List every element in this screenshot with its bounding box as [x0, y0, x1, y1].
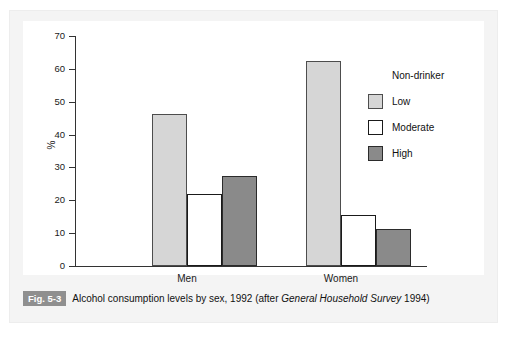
y-tick-30: 30	[23, 162, 75, 172]
y-tick-label: 10	[39, 228, 65, 238]
y-tick-label: 20	[39, 195, 65, 205]
y-tick-40: 40	[23, 130, 75, 140]
bar-men-moderate	[187, 194, 222, 266]
y-tick-50: 50	[23, 97, 75, 107]
y-tick-label: 50	[39, 97, 65, 107]
legend-label: High	[392, 148, 413, 159]
y-tick-mark	[69, 266, 75, 267]
bar-men-high	[222, 176, 257, 266]
y-tick-10: 10	[23, 228, 75, 238]
bar-women-high	[376, 229, 411, 266]
figure-caption: Fig. 5-3 Alcohol consumption levels by s…	[23, 288, 484, 308]
y-tick-60: 60	[23, 64, 75, 74]
legend-label: Non-drinker	[392, 70, 444, 81]
legend: Non-drinkerLowModerateHigh	[368, 67, 480, 171]
legend-swatch-non-drinker-icon	[368, 68, 383, 83]
legend-label: Moderate	[392, 122, 434, 133]
x-axis-line	[75, 266, 427, 267]
caption-text: Alcohol consumption levels by sex, 1992 …	[72, 293, 429, 304]
y-tick-label: 70	[39, 31, 65, 41]
category-label-men: Men	[117, 273, 257, 285]
caption-text-before: Alcohol consumption levels by sex, 1992 …	[72, 293, 281, 304]
legend-item-low[interactable]: Low	[368, 93, 480, 109]
figure-container: % 706050403020100 MenWomen Non-drinkerLo…	[0, 0, 507, 337]
plot-area: % 706050403020100 MenWomen Non-drinkerLo…	[23, 21, 484, 275]
caption-text-after: 1994)	[401, 293, 429, 304]
legend-label: Low	[392, 96, 410, 107]
bar-men-low	[152, 114, 187, 266]
legend-swatch-moderate-icon	[368, 120, 383, 135]
y-axis-label: %	[45, 138, 59, 152]
figure-number-badge: Fig. 5-3	[23, 291, 66, 306]
y-tick-label: 30	[39, 162, 65, 172]
caption-source-italic: General Household Survey	[281, 293, 401, 304]
bar-women-moderate	[341, 215, 376, 266]
legend-item-non-drinker[interactable]: Non-drinker	[368, 67, 480, 83]
legend-swatch-high-icon	[368, 146, 383, 161]
y-tick-70: 70	[23, 31, 75, 41]
legend-item-high[interactable]: High	[368, 145, 480, 161]
bar-women-non-drinker	[271, 225, 306, 266]
bar-women-low	[306, 61, 341, 266]
y-tick-0: 0	[23, 261, 75, 271]
y-tick-label: 0	[39, 261, 65, 271]
y-tick-label: 60	[39, 64, 65, 74]
chart-plot-card: % 706050403020100 MenWomen Non-drinkerLo…	[23, 21, 484, 275]
y-tick-label: 40	[39, 130, 65, 140]
legend-swatch-low-icon	[368, 94, 383, 109]
category-label-women: Women	[271, 273, 411, 285]
y-tick-20: 20	[23, 195, 75, 205]
bar-men-non-drinker	[117, 250, 152, 266]
legend-item-moderate[interactable]: Moderate	[368, 119, 480, 135]
